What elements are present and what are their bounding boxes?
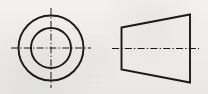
front-view xyxy=(11,8,91,88)
drawing-sheet xyxy=(0,0,208,94)
drawing-canvas xyxy=(0,0,208,94)
side-view xyxy=(112,15,199,83)
